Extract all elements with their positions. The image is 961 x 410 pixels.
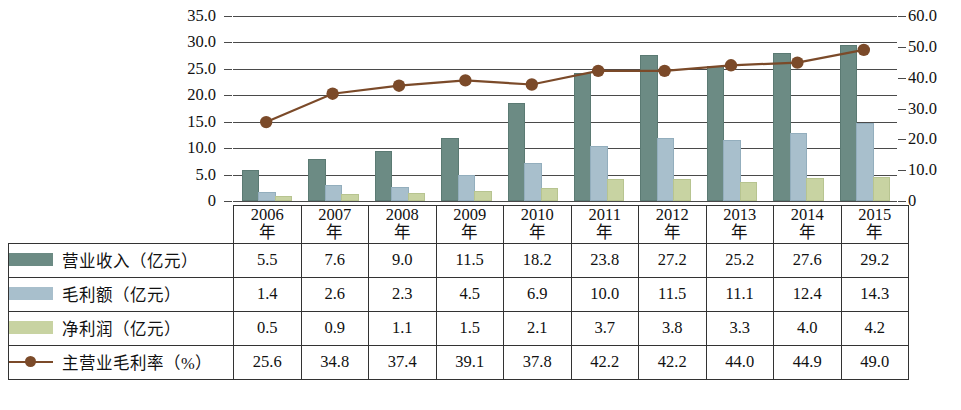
data-table: 2006年2007年2008年2009年2010年2011年2012年2013年…: [8, 205, 909, 380]
left-axis-tick-label: 10.0: [187, 140, 216, 157]
table-value-cell: 4.5: [436, 277, 504, 311]
margin-line-marker: [393, 80, 405, 92]
table-value-cell: 3.7: [571, 311, 639, 345]
left-axis-tick-label: 35.0: [187, 8, 216, 25]
right-axis-tick-label: 30.0: [908, 100, 937, 117]
axis-tick: [224, 201, 232, 202]
axis-tick: [898, 139, 906, 140]
margin-line-layer: [233, 16, 897, 201]
left-axis-tick-label: 15.0: [187, 113, 216, 130]
table-value-cell: 3.8: [639, 311, 707, 345]
year-header-cell: 2008年: [369, 206, 437, 244]
margin-line-svg: [233, 16, 897, 201]
table-value-cell: 11.1: [706, 277, 774, 311]
table-value-cell: 11.5: [436, 243, 504, 277]
table-value-cell: 34.8: [301, 345, 369, 379]
table-value-cell: 1.1: [369, 311, 437, 345]
table-value-cell: 5.5: [234, 243, 302, 277]
table-value-cell: 3.3: [706, 311, 774, 345]
year-header-cell: 2009年: [436, 206, 504, 244]
year-header-cell: 2006年: [234, 206, 302, 244]
plot-region: [233, 16, 897, 201]
right-axis-tick-label: 40.0: [908, 69, 937, 86]
year-header-cell: 2013年: [706, 206, 774, 244]
right-axis-tick-label: 20.0: [908, 131, 937, 148]
legend-swatch-icon: [9, 321, 53, 334]
table-value-cell: 6.9: [504, 277, 572, 311]
axis-tick: [898, 201, 906, 202]
left-axis-tick-label: 5.0: [195, 166, 216, 183]
axis-tick: [898, 78, 906, 79]
axis-tick: [224, 69, 232, 70]
axis-tick: [224, 95, 232, 96]
left-axis-tick-label: 20.0: [187, 87, 216, 104]
table-row: 毛利额（亿元）1.42.62.34.56.910.011.511.112.414…: [9, 277, 909, 311]
table-value-cell: 39.1: [436, 345, 504, 379]
table-value-cell: 0.5: [234, 311, 302, 345]
table-corner-cell: [9, 206, 234, 244]
table-value-cell: 7.6: [301, 243, 369, 277]
table-value-cell: 27.6: [774, 243, 842, 277]
axis-tick: [224, 16, 232, 17]
table-row: 净利润（亿元）0.50.91.11.52.13.73.83.34.04.2: [9, 311, 909, 345]
right-axis-tick-label: 60.0: [908, 8, 937, 25]
table-row: 营业收入（亿元）5.57.69.011.518.223.827.225.227.…: [9, 243, 909, 277]
series-name-text: 营业收入（亿元）: [62, 252, 198, 271]
table-header-row: 2006年2007年2008年2009年2010年2011年2012年2013年…: [9, 206, 909, 244]
axis-tick: [224, 148, 232, 149]
series-name-text: 毛利额（亿元）: [62, 286, 181, 305]
margin-line-marker: [326, 88, 338, 100]
table-value-cell: 2.1: [504, 311, 572, 345]
table-value-cell: 1.5: [436, 311, 504, 345]
series-legend-label: 主营业毛利率（%）: [9, 345, 234, 379]
year-header-cell: 2010年: [504, 206, 572, 244]
margin-line-marker: [791, 56, 803, 68]
axis-tick: [898, 170, 906, 171]
margin-line-marker: [260, 116, 272, 128]
axis-tick: [898, 47, 906, 48]
table-value-cell: 9.0: [369, 243, 437, 277]
year-header-cell: 2015年: [841, 206, 909, 244]
year-header-cell: 2014年: [774, 206, 842, 244]
table-value-cell: 25.6: [234, 345, 302, 379]
table-value-cell: 14.3: [841, 277, 909, 311]
table-value-cell: 37.8: [504, 345, 572, 379]
table-value-cell: 23.8: [571, 243, 639, 277]
right-axis-labels: 60.050.040.030.020.010.00: [908, 16, 961, 201]
margin-line-path: [266, 50, 864, 122]
left-axis-tick-label: 25.0: [187, 61, 216, 78]
axis-tick: [224, 42, 232, 43]
table-value-cell: 49.0: [841, 345, 909, 379]
year-header-cell: 2007年: [301, 206, 369, 244]
legend-marker-icon: [25, 356, 36, 367]
data-table-wrap: 2006年2007年2008年2009年2010年2011年2012年2013年…: [8, 205, 908, 408]
axis-tick: [898, 16, 906, 17]
chart-page: 35.030.025.020.015.010.05.00 60.050.040.…: [0, 0, 961, 410]
series-name-text: 主营业毛利率（%）: [62, 354, 212, 373]
table-value-cell: 44.9: [774, 345, 842, 379]
year-header-cell: 2012年: [639, 206, 707, 244]
table-value-cell: 25.2: [706, 243, 774, 277]
right-axis-tick-label: 50.0: [908, 39, 937, 56]
table-value-cell: 42.2: [639, 345, 707, 379]
series-name-text: 净利润（亿元）: [62, 320, 181, 339]
table-value-cell: 27.2: [639, 243, 707, 277]
left-axis-labels: 35.030.025.020.015.010.05.00: [0, 16, 222, 201]
table-value-cell: 29.2: [841, 243, 909, 277]
table-value-cell: 4.2: [841, 311, 909, 345]
margin-line-marker: [592, 65, 604, 77]
right-axis-tick-label: 0: [908, 193, 916, 210]
table-value-cell: 10.0: [571, 277, 639, 311]
table-value-cell: 18.2: [504, 243, 572, 277]
left-axis-tick-label: 30.0: [187, 34, 216, 51]
margin-line-marker: [526, 78, 538, 90]
table-value-cell: 2.6: [301, 277, 369, 311]
series-legend-label: 净利润（亿元）: [9, 311, 234, 345]
axis-tick: [224, 122, 232, 123]
legend-swatch-icon: [9, 287, 53, 300]
legend-swatch-icon: [9, 355, 53, 368]
table-value-cell: 2.3: [369, 277, 437, 311]
right-axis-tick-label: 10.0: [908, 162, 937, 179]
axis-tick: [898, 109, 906, 110]
table-row: 主营业毛利率（%）25.634.837.439.137.842.242.244.…: [9, 345, 909, 379]
